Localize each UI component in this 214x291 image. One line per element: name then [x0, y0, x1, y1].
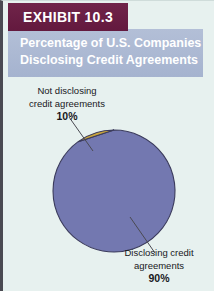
callout-disclosing-percent: 90% [107, 272, 211, 285]
chart-title: Percentage of U.S. Companies Disclosing … [20, 35, 195, 69]
callout-not-disclosing: Not disclosing credit agreements 10% [15, 85, 119, 123]
title-band: Percentage of U.S. Companies Disclosing … [8, 29, 203, 77]
chart-title-line-2: Disclosing Credit Agreements [20, 52, 195, 69]
pie-slice-disclosing [53, 130, 175, 252]
chart-title-line-1: Percentage of U.S. Companies [20, 35, 195, 52]
callout-not-disclosing-percent: 10% [15, 110, 119, 123]
callout-not-disclosing-line-1: Not disclosing [15, 85, 119, 98]
callout-disclosing-line-2: agreements [107, 260, 211, 273]
callout-disclosing: Disclosing credit agreements 90% [107, 247, 211, 285]
exhibit-figure: EXHIBIT 10.3 Percentage of U.S. Companie… [0, 0, 214, 291]
exhibit-tag-banner: EXHIBIT 10.3 [8, 3, 128, 31]
exhibit-tag-label: EXHIBIT 10.3 [8, 9, 128, 25]
callout-not-disclosing-line-2: credit agreements [15, 98, 119, 111]
callout-disclosing-line-1: Disclosing credit [107, 247, 211, 260]
